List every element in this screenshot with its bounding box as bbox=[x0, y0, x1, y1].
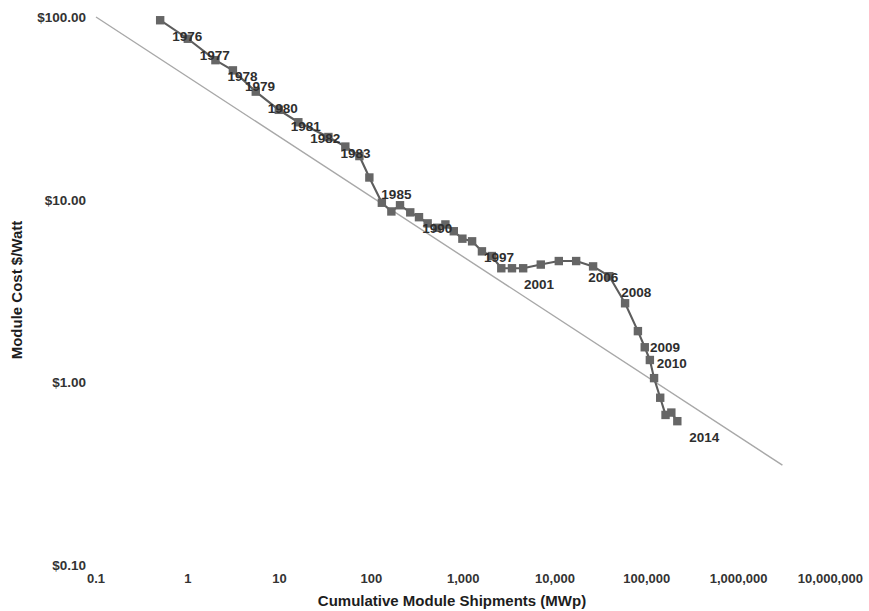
data-point-label: 2008 bbox=[621, 285, 652, 300]
data-point-marker bbox=[555, 257, 563, 265]
x-axis-tick-labels: 0.11101001,00010,000100,0001,000,00010,0… bbox=[87, 571, 863, 586]
data-point-label: 1982 bbox=[310, 131, 340, 146]
data-point-label: 1980 bbox=[268, 101, 298, 116]
data-point-marker bbox=[468, 237, 476, 245]
x-tick-label: 10,000,000 bbox=[798, 571, 863, 586]
data-point-label: 1979 bbox=[245, 79, 275, 94]
data-point-label: 1983 bbox=[340, 146, 371, 161]
data-point-marker bbox=[641, 343, 649, 351]
point-year-labels: 1976197719781979198019811982198319851990… bbox=[172, 29, 720, 445]
trend-line bbox=[96, 17, 782, 465]
y-tick-label: $0.10 bbox=[52, 558, 86, 573]
x-tick-label: 100 bbox=[361, 571, 383, 586]
x-tick-label: 10 bbox=[272, 571, 286, 586]
data-point-marker bbox=[406, 208, 414, 216]
y-axis-tick-labels: $100.00$10.00$1.00$0.10 bbox=[37, 10, 86, 573]
data-point-marker bbox=[646, 356, 654, 364]
y-tick-label: $10.00 bbox=[45, 193, 86, 208]
x-tick-label: 1,000,000 bbox=[710, 571, 768, 586]
x-axis-title: Cumulative Module Shipments (MWp) bbox=[318, 592, 586, 609]
data-point-marker bbox=[537, 260, 545, 268]
data-point-marker bbox=[667, 408, 675, 416]
data-point-marker bbox=[634, 327, 642, 335]
data-point-label: 2001 bbox=[524, 277, 555, 292]
data-point-label: 1977 bbox=[200, 48, 230, 63]
data-point-label: 2010 bbox=[657, 356, 687, 371]
chart-svg: $100.00$10.00$1.00$0.10 0.11101001,00010… bbox=[0, 0, 869, 611]
y-tick-label: $100.00 bbox=[37, 10, 86, 25]
data-point-label: 1997 bbox=[484, 250, 514, 265]
data-point-marker bbox=[519, 264, 527, 272]
data-point-marker bbox=[387, 207, 395, 215]
y-axis-title: Module Cost $/Watt bbox=[8, 221, 25, 360]
data-point-label: 2006 bbox=[588, 270, 619, 285]
data-point-label: 2009 bbox=[650, 340, 680, 355]
x-tick-label: 100,000 bbox=[623, 571, 670, 586]
data-point-marker bbox=[673, 417, 681, 425]
data-point-marker bbox=[365, 173, 373, 181]
data-point-label: 2014 bbox=[689, 430, 720, 445]
x-tick-label: 1 bbox=[184, 571, 191, 586]
data-point-marker bbox=[458, 234, 466, 242]
y-tick-label: $1.00 bbox=[52, 375, 86, 390]
data-point-marker bbox=[572, 257, 580, 265]
data-point-marker bbox=[650, 374, 658, 382]
data-point-label: 1990 bbox=[422, 221, 452, 236]
data-point-marker bbox=[156, 16, 164, 24]
data-point-marker bbox=[396, 201, 404, 209]
x-tick-label: 0.1 bbox=[87, 571, 105, 586]
data-point-marker bbox=[621, 299, 629, 307]
data-point-marker bbox=[415, 213, 423, 221]
x-tick-label: 1,000 bbox=[447, 571, 480, 586]
data-point-marker bbox=[656, 394, 664, 402]
x-tick-label: 10,000 bbox=[535, 571, 575, 586]
experience-curve-chart: $100.00$10.00$1.00$0.10 0.11101001,00010… bbox=[0, 0, 869, 611]
data-point-label: 1976 bbox=[172, 29, 203, 44]
data-point-label: 1985 bbox=[381, 187, 412, 202]
